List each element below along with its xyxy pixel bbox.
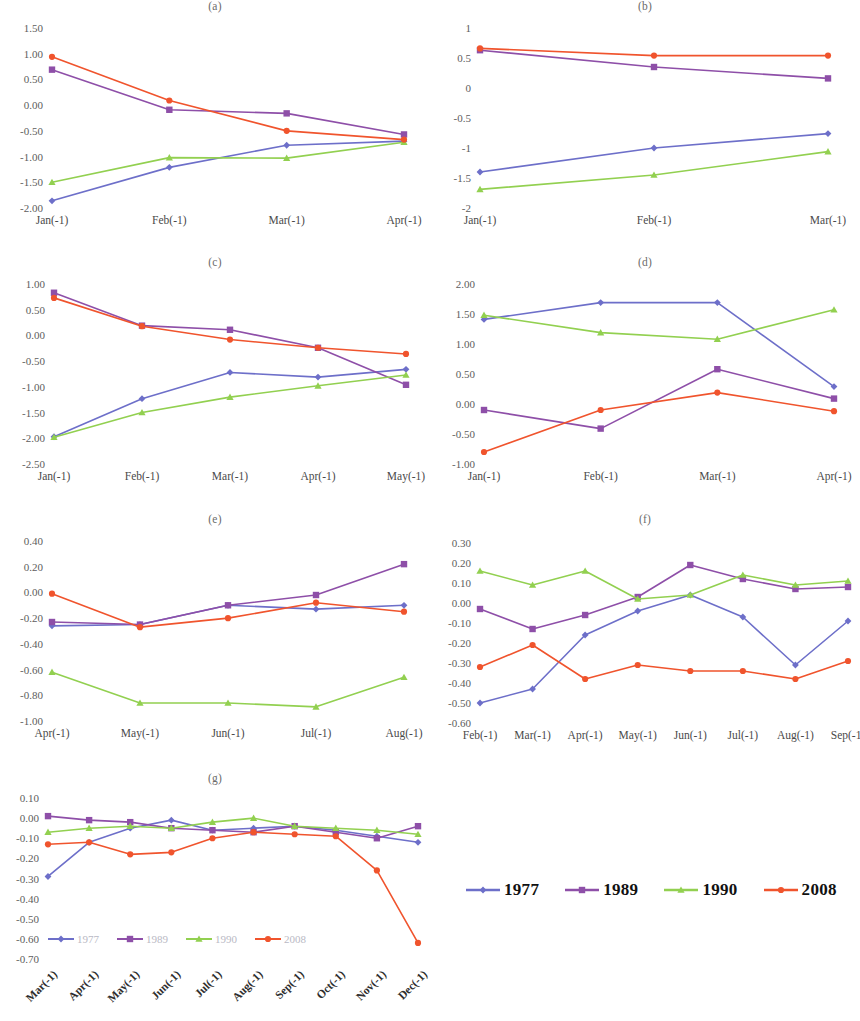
- data-point-marker: [227, 369, 234, 376]
- series-line-1990: [480, 571, 848, 599]
- y-axis-tick-label: -0.20: [448, 637, 471, 649]
- panel-d-svg: 2.001.501.000.500.00-0.50-1.00Jan(-1)Feb…: [430, 256, 860, 506]
- data-point-marker: [481, 407, 487, 413]
- data-point-marker: [582, 612, 588, 618]
- data-point-marker: [476, 567, 483, 573]
- data-point-marker: [845, 584, 851, 590]
- x-axis-tick-label: Oct(-1): [314, 968, 348, 1002]
- panel-g-legend-item-1989[interactable]: 1989: [117, 933, 168, 945]
- y-axis-tick-label: 1.00: [24, 48, 44, 60]
- data-point-marker: [582, 567, 589, 573]
- data-point-marker: [209, 835, 215, 841]
- figure-legend: 1977198919902008: [466, 880, 837, 900]
- data-point-marker: [739, 571, 746, 577]
- panel-g: (g) 0.100.00-0.10-0.20-0.30-0.40-0.50-0.…: [0, 772, 440, 1021]
- data-point-marker: [401, 609, 407, 615]
- data-point-marker: [168, 849, 174, 855]
- panel-g-legend-item-2008[interactable]: 2008: [255, 933, 306, 945]
- x-axis-tick-label: Feb(-1): [583, 470, 618, 483]
- data-point-marker: [401, 561, 407, 567]
- y-axis-tick-label: 0.00: [452, 597, 472, 609]
- panel-d: (d) 2.001.501.000.500.00-0.50-1.00Jan(-1…: [430, 256, 860, 506]
- data-point-marker: [227, 336, 233, 342]
- series-line-1989: [484, 369, 834, 428]
- x-axis-tick-label: Sep(-1): [831, 729, 860, 742]
- data-point-marker: [86, 817, 92, 823]
- y-axis-tick-label: -1.00: [452, 458, 475, 470]
- data-point-marker: [830, 306, 837, 312]
- y-axis-tick-label: -1.5: [454, 172, 472, 184]
- legend-item-1989[interactable]: 1989: [565, 880, 638, 900]
- y-axis-tick-label: 0.50: [24, 73, 44, 85]
- data-point-marker: [529, 626, 535, 632]
- x-axis-tick-label: Mar(-1): [268, 214, 305, 227]
- y-axis-tick-label: -0.50: [448, 697, 471, 709]
- y-axis-tick-label: 0.20: [24, 561, 44, 573]
- data-point-marker: [477, 45, 483, 51]
- data-point-marker: [403, 351, 409, 357]
- data-point-marker: [49, 619, 55, 625]
- data-point-marker: [45, 841, 51, 847]
- series-line-1989: [52, 70, 404, 135]
- y-axis-tick-label: 0.10: [20, 792, 40, 804]
- y-axis-tick-label: 0.00: [20, 812, 40, 824]
- data-point-marker: [374, 835, 380, 841]
- data-point-marker: [400, 674, 407, 680]
- series-line-1977: [480, 134, 828, 172]
- panel-g-legend-item-1990[interactable]: 1990: [186, 933, 237, 945]
- legend-item-1977[interactable]: 1977: [466, 880, 539, 900]
- x-axis-tick-label: Jul(-1): [192, 968, 224, 1000]
- panel-a-svg: 1.501.000.500.00-0.50-1.00-1.50-2.00Jan(…: [0, 0, 430, 250]
- y-axis-tick-label: -2.00: [22, 432, 45, 444]
- x-axis-tick-label: Apr(-1): [300, 470, 335, 483]
- legend-item-1990[interactable]: 1990: [664, 880, 737, 900]
- data-point-marker: [597, 299, 604, 306]
- series-line-2008: [484, 393, 834, 452]
- y-axis-tick-label: 0.20: [452, 557, 472, 569]
- data-point-marker: [227, 327, 233, 333]
- data-point-marker: [166, 164, 173, 171]
- data-point-marker: [137, 624, 143, 630]
- legend-item-label: 2008: [802, 880, 837, 900]
- y-axis-tick-label: -0.60: [20, 664, 43, 676]
- data-point-marker: [283, 142, 290, 149]
- legend-item-2008[interactable]: 2008: [764, 880, 837, 900]
- y-axis-tick-label: -0.40: [448, 677, 471, 689]
- x-axis-tick-label: Sep(-1): [273, 968, 307, 1002]
- y-axis-tick-label: -1.00: [22, 381, 45, 393]
- data-point-marker: [292, 831, 298, 837]
- panel-b-plot: 10.50-0.5-1-1.5-2Jan(-1)Feb(-1)Mar(-1): [430, 0, 860, 250]
- panel-f-plot: 0.300.200.100.00-0.10-0.20-0.30-0.40-0.5…: [430, 513, 860, 763]
- y-axis-tick-label: 0.50: [456, 368, 476, 380]
- y-axis-tick-label: -0.40: [16, 893, 39, 905]
- y-axis-tick-label: -0.40: [20, 638, 43, 650]
- x-axis-tick-label: Jan(-1): [36, 214, 69, 227]
- panel-g-plot: 0.100.00-0.10-0.20-0.30-0.40-0.50-0.60-0…: [0, 772, 440, 1021]
- x-axis-tick-label: Aug(-1): [385, 727, 422, 740]
- y-axis-tick-label: -0.50: [16, 913, 39, 925]
- panel-c-plot: 1.000.500.00-0.50-1.00-1.50-2.00-2.50Jan…: [0, 256, 430, 506]
- data-point-marker: [415, 823, 421, 829]
- y-axis-tick-label: -2: [462, 202, 471, 214]
- data-point-marker: [831, 408, 837, 414]
- data-point-marker: [48, 669, 55, 675]
- data-point-marker: [209, 827, 215, 833]
- data-point-marker: [265, 936, 271, 942]
- legend-swatch-icon: [664, 884, 698, 896]
- y-axis-tick-label: -0.10: [448, 617, 471, 629]
- series-line-1977: [484, 303, 834, 387]
- y-axis-tick-label: -1: [462, 142, 471, 154]
- data-point-marker: [825, 53, 831, 59]
- y-axis-tick-label: 0.40: [24, 535, 44, 547]
- x-axis-tick-label: Mar(-1): [212, 470, 249, 483]
- data-point-marker: [651, 53, 657, 59]
- panel-f-svg: 0.300.200.100.00-0.10-0.20-0.30-0.40-0.5…: [430, 513, 860, 763]
- panel-g-legend-item-1977[interactable]: 1977: [48, 933, 99, 945]
- y-axis-tick-label: -0.30: [16, 873, 39, 885]
- y-axis-tick-label: -0.50: [22, 355, 45, 367]
- data-point-marker: [778, 887, 784, 893]
- data-point-marker: [374, 867, 380, 873]
- x-axis-tick-label: Mar(-1): [699, 470, 736, 483]
- y-axis-tick-label: -1.50: [20, 176, 43, 188]
- data-point-marker: [598, 407, 604, 413]
